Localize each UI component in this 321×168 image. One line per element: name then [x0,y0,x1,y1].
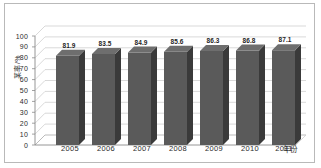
bar-2006[interactable] [92,48,121,145]
chart-frame: 100 90 80 70 60 50 40 30 20 10 0 某率/% 81… [4,3,315,163]
y-tick-label-10: 10 [6,131,28,138]
y-axis-title: 某率/% [12,39,22,95]
x-tick-label-2005: 2005 [53,144,87,153]
bar-2010[interactable] [236,45,265,146]
chart-graphics [5,4,316,164]
x-tick-label-2006: 2006 [89,144,123,153]
bar-2011[interactable] [272,44,301,145]
bar-series [56,44,301,145]
data-label-2008: 85.6 [162,38,192,45]
data-label-2005: 81.9 [54,42,84,49]
bar-2008[interactable] [164,46,193,145]
data-label-2006: 83.5 [90,40,120,47]
data-label-2011: 87.1 [270,36,300,43]
data-label-2007: 84.9 [126,39,156,46]
x-tick-label-2007: 2007 [125,144,159,153]
y-tick-label-0: 0 [6,142,28,149]
data-label-2010: 86.8 [234,37,264,44]
x-tick-label-2010: 2010 [233,144,267,153]
bar-2005[interactable] [56,50,85,145]
y-tick-label-40: 40 [6,98,28,105]
data-label-2009: 86.3 [198,37,228,44]
x-tick-label-2009: 2009 [197,144,231,153]
y-tick-label-30: 30 [6,109,28,116]
y-tick-label-20: 20 [6,120,28,127]
x-axis-title: 年份 [283,143,298,154]
bar-2009[interactable] [200,45,229,145]
bar-2007[interactable] [128,47,157,146]
chart-plot-area: 100 90 80 70 60 50 40 30 20 10 0 某率/% 81… [5,4,316,164]
x-tick-label-2008: 2008 [161,144,195,153]
